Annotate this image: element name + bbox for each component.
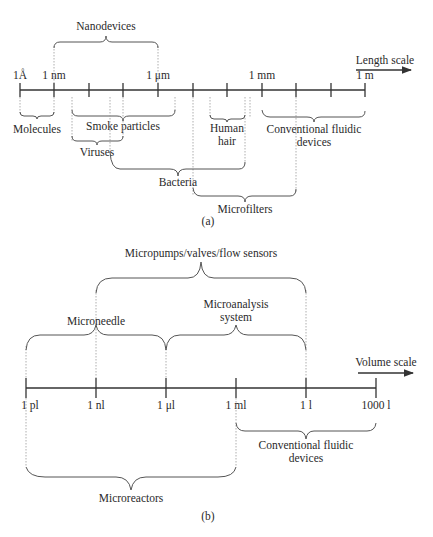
microfilters-label: Microfilters [218,203,273,215]
human-hair-label-line1: Human [210,122,244,134]
conventional-fluidic-brace-b [236,423,376,439]
conventional-fluidic-label-b-line2: devices [289,452,324,464]
bacteria-label: Bacteria [159,176,197,188]
human-hair-label-line2: hair [218,135,236,147]
micropumps-label: Micropumps/valves/flow sensors [125,247,278,260]
microanalysis-label-line2: system [220,311,252,324]
tick-label-1-nl: 1 nl [87,399,105,411]
molecules-label: Molecules [13,123,61,135]
microanalysis-label-line1: Microanalysis [203,298,269,311]
panel-b-volume-scale: 1 pl 1 nl 1 μl 1 ml 1 l 1000 l Volume sc… [21,247,417,523]
tick-label-1-pl: 1 pl [21,399,39,412]
nanodevices-brace [54,36,158,48]
scale-diagram: 1Å 1 nm 1 μm 1 mm 1 m Length scale Nanod… [0,0,433,537]
volume-scale-label: Volume scale [355,356,416,368]
length-scale-label: Length scale [356,54,414,67]
conventional-fluidic-label-a-line2: devices [297,136,332,148]
panel-b-caption: (b) [201,510,215,523]
tick-label-1-angstrom: 1Å [13,68,28,81]
tick-label-1-ul: 1 μl [157,399,175,412]
panel-a-length-scale: 1Å 1 nm 1 μm 1 mm 1 m Length scale Nanod… [13,20,414,228]
micropumps-brace [96,262,306,293]
microreactors-brace [26,467,236,490]
conventional-fluidic-label-b-line1: Conventional fluidic [259,439,354,451]
tick-label-1-mm: 1 mm [249,69,276,81]
panel-a-caption: (a) [202,215,215,228]
microneedle-brace [26,325,166,350]
viruses-label: Viruses [80,146,115,158]
conventional-fluidic-label-a-line1: Conventional fluidic [267,123,362,135]
microneedle-label: Microneedle [67,315,125,327]
human-hair-brace [210,115,245,122]
molecules-brace [20,112,54,119]
bacteria-brace [110,152,245,176]
microreactors-label: Microreactors [99,492,164,504]
viruses-brace [72,136,123,145]
tick-label-1000-l: 1000 l [361,399,390,411]
nanodevices-label: Nanodevices [76,20,136,32]
tick-label-1-l: 1 l [300,399,312,411]
microfilters-brace [193,188,296,202]
conventional-fluidic-brace-a [262,110,365,122]
microanalysis-brace [166,325,306,350]
tick-label-1-m: 1 m [356,69,374,81]
